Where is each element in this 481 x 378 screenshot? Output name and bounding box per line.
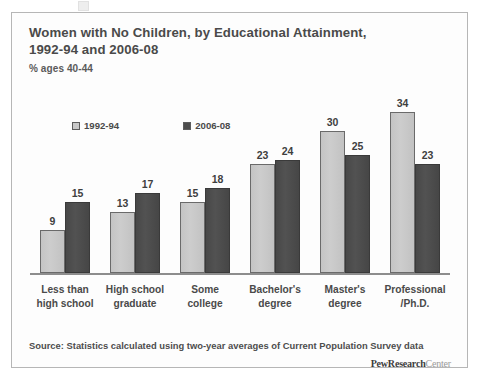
bar-value-1-4: 25: [352, 140, 364, 152]
title-block: Women with No Children, by Educational A…: [29, 24, 439, 74]
bar-1-4: [345, 155, 370, 273]
bar-0-3: [250, 164, 275, 273]
bar-wrap-0-1: 13: [110, 103, 135, 273]
x-axis-label-5-line-2: /Ph.D.: [380, 297, 450, 311]
bar-value-0-1: 13: [117, 197, 129, 209]
bar-wrap-1-0: 15: [65, 103, 90, 273]
bar-value-0-2: 15: [187, 187, 199, 199]
x-axis-label-2-line-1: Some: [170, 283, 240, 297]
bar-wrap-0-0: 9: [40, 103, 65, 273]
bar-wrap-1-1: 17: [135, 103, 160, 273]
bar-1-5: [415, 164, 440, 273]
bar-0-2: [180, 202, 205, 273]
page-title-line-2: 1992-94 and 2006-08: [29, 41, 439, 58]
bar-value-1-3: 24: [282, 145, 294, 157]
scan-artifact: [78, 1, 89, 11]
x-axis-label-3-line-1: Bachelor's: [240, 283, 310, 297]
axis-baseline: [30, 273, 450, 275]
x-axis-label-0-line-2: high school: [30, 297, 100, 311]
x-axis-label-1: High school graduate: [100, 283, 170, 311]
x-axis-labels: Less than high school High school gradua…: [30, 283, 450, 311]
bar-group-2: 15 18: [170, 103, 240, 273]
chart-subtitle: % ages 40-44: [29, 63, 439, 74]
bar-group-5: 34 23: [380, 103, 450, 273]
bar-1-3: [275, 160, 300, 273]
x-axis-label-0-line-1: Less than: [30, 283, 100, 297]
bar-group-3: 23 24: [240, 103, 310, 273]
bar-wrap-0-4: 30: [320, 103, 345, 273]
bar-wrap-1-3: 24: [275, 103, 300, 273]
page-title-line-1: Women with No Children, by Educational A…: [29, 24, 439, 41]
bar-wrap-0-3: 23: [250, 103, 275, 273]
bar-value-0-4: 30: [327, 116, 339, 128]
bar-0-5: [390, 112, 415, 273]
plot-area: 9 15 13 17 15: [30, 103, 450, 275]
x-axis-label-4-line-2: degree: [310, 297, 380, 311]
bar-wrap-1-4: 25: [345, 103, 370, 273]
brand-light-text: Center: [426, 358, 451, 369]
bar-value-1-2: 18: [212, 173, 224, 185]
x-axis-label-1-line-2: graduate: [100, 297, 170, 311]
bar-wrap-0-2: 15: [180, 103, 205, 273]
bar-value-1-0: 15: [72, 187, 84, 199]
pew-research-center-logo: PewResearchCenter: [371, 358, 451, 369]
x-axis-label-5: Professional /Ph.D.: [380, 283, 450, 311]
bar-0-0: [40, 230, 65, 273]
bar-wrap-1-5: 23: [415, 103, 440, 273]
x-axis-label-1-line-1: High school: [100, 283, 170, 297]
bar-groups: 9 15 13 17 15: [30, 103, 450, 273]
bar-value-0-3: 23: [257, 149, 269, 161]
bar-group-0: 9 15: [30, 103, 100, 273]
bar-value-1-5: 23: [422, 149, 434, 161]
x-axis-label-3-line-2: degree: [240, 297, 310, 311]
bar-wrap-0-5: 34: [390, 103, 415, 273]
x-axis-label-2-line-2: college: [170, 297, 240, 311]
bar-group-1: 13 17: [100, 103, 170, 273]
bar-0-1: [110, 212, 135, 273]
bar-1-1: [135, 193, 160, 273]
x-axis-label-5-line-1: Professional: [380, 283, 450, 297]
source-note: Source: Statistics calculated using two-…: [29, 340, 423, 351]
bar-1-2: [205, 188, 230, 273]
bar-group-4: 30 25: [310, 103, 380, 273]
x-axis-label-4: Master's degree: [310, 283, 380, 311]
bar-value-0-0: 9: [50, 215, 56, 227]
bar-1-0: [65, 202, 90, 273]
bar-0-4: [320, 131, 345, 273]
chart-figure: Women with No Children, by Educational A…: [11, 12, 468, 368]
bar-value-0-5: 34: [397, 97, 409, 109]
x-axis-label-0: Less than high school: [30, 283, 100, 311]
bar-value-1-1: 17: [142, 178, 154, 190]
x-axis-label-4-line-1: Master's: [310, 283, 380, 297]
x-axis-label-2: Some college: [170, 283, 240, 311]
bar-wrap-1-2: 18: [205, 103, 230, 273]
brand-strong-text: PewResearch: [371, 358, 426, 369]
x-axis-label-3: Bachelor's degree: [240, 283, 310, 311]
